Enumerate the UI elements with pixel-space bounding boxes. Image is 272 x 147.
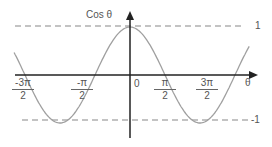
x-axis-label: θ: [245, 78, 251, 88]
y-axis-label: Cos θ: [86, 10, 112, 20]
upper-bound-label: 1: [255, 21, 261, 31]
tick-label-neg-pi-2: -π 2: [71, 78, 93, 101]
lower-bound-label: -1: [251, 115, 260, 125]
tick-label-pi-2: π 2: [154, 78, 176, 101]
tick-label-neg-3pi-2: -3π 2: [12, 78, 34, 101]
tick-label-3pi-2: 3π 2: [196, 78, 218, 101]
cosine-chart: Cos θ 1 -1 θ 0 -3π 2 -π 2 π 2 3π 2: [0, 0, 272, 147]
y-axis-arrow-icon: [126, 11, 134, 20]
origin-label: 0: [134, 79, 140, 89]
plot-area: [0, 0, 272, 147]
